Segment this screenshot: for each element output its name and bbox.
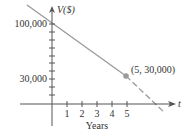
data-point [123,73,129,79]
x-tick-2: 2 [80,108,85,119]
chart: V($) t 100,000 30,000 1 2 3 4 5 Years (5… [0,0,188,137]
y-tick-100000: 100,000 [15,18,48,29]
x-tick-1: 1 [65,108,70,119]
x-tick-5: 5 [125,108,130,119]
y-axis-label: V($) [57,4,75,16]
x-axis-title: Years [86,120,108,131]
x-tick-3: 3 [95,108,100,119]
value-line-dashed [126,76,165,113]
point-label: (5, 30,000) [131,64,175,76]
value-line-solid [27,5,126,76]
y-tick-30000: 30,000 [20,73,48,84]
x-axis-label: t [178,98,181,109]
x-tick-4: 4 [110,108,115,119]
